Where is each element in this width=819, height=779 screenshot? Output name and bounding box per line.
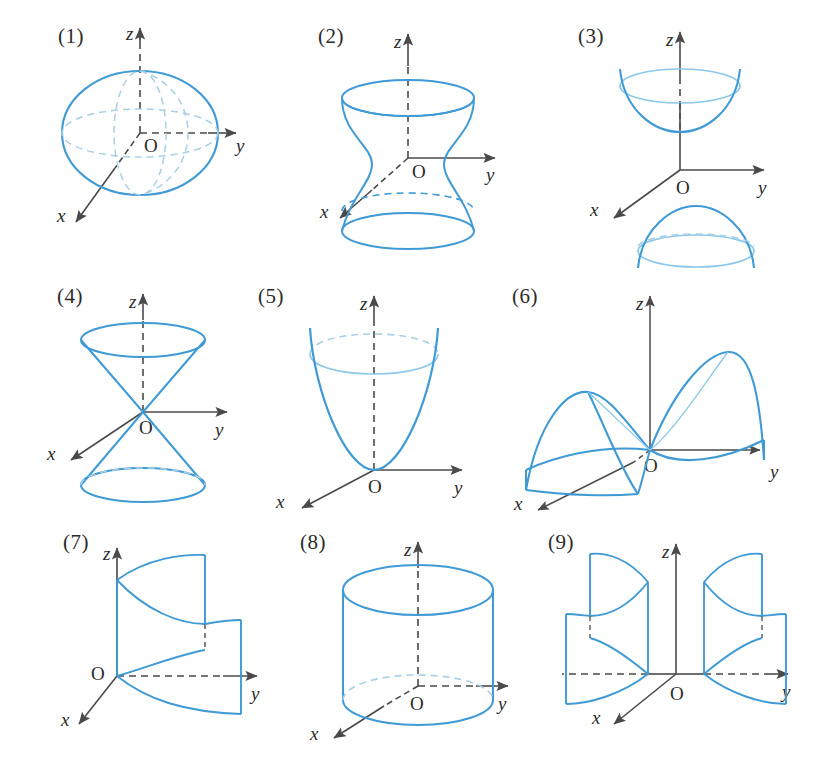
figure-7-x-label: x	[60, 709, 70, 730]
figure-4-z-label: z	[128, 291, 137, 312]
figure-2-x-label: x	[319, 201, 329, 222]
figure-1-origin-label: O	[144, 135, 158, 156]
figure-plate: (1) z y x O	[0, 0, 819, 779]
figure-6-number: (6)	[512, 284, 538, 309]
figure-9-z-label: z	[661, 541, 670, 562]
figure-7-parabolic-cylinder: (7) z y x O	[55, 528, 305, 768]
figure-7-y-label: y	[249, 683, 260, 704]
figure-3-number: (3)	[578, 24, 604, 49]
figure-2-z-label: z	[393, 31, 402, 52]
figure-1-number: (1)	[58, 24, 84, 49]
figure-2-number: (2)	[318, 24, 344, 49]
figure-3-x-label: x	[589, 199, 599, 220]
figure-8-x-label: x	[309, 723, 319, 744]
figure-4-elliptic-cone: (4) z y x O	[35, 282, 285, 512]
figure-2-origin-label: O	[412, 161, 426, 182]
figure-8-elliptic-cylinder: (8) z y x O	[300, 528, 550, 768]
figure-8-z-label: z	[403, 539, 412, 560]
figure-7-z-label: z	[102, 543, 111, 564]
figure-1-x-label: x	[56, 205, 66, 226]
figure-6-axes: z y x O	[513, 293, 779, 514]
figure-5-origin-label: O	[368, 476, 382, 497]
figure-8-number: (8)	[300, 530, 326, 555]
figure-9-number: (9)	[548, 530, 574, 555]
figure-3-origin-label: O	[676, 177, 690, 198]
figure-4-x-label: x	[46, 443, 56, 464]
figure-5-elliptic-paraboloid: (5) z y x O	[258, 282, 518, 512]
figure-1-z-label: z	[125, 23, 134, 44]
figure-5-axes: z y x O	[275, 293, 463, 512]
figure-3-lower-sheet	[638, 206, 754, 268]
figure-9-right-branch	[704, 554, 786, 704]
figure-2-y-label: y	[484, 164, 495, 185]
figure-9-x-label: x	[591, 707, 601, 728]
figure-4-axes: z y x O	[46, 291, 227, 464]
figure-8-axes: z y x O	[309, 539, 508, 744]
figure-9-left-branch	[566, 554, 648, 704]
figure-1-ellipsoid: (1) z y x O	[40, 18, 290, 253]
figure-3-axes: z y x O	[589, 29, 767, 220]
figure-2-axes: z y x O	[319, 31, 495, 222]
figure-6-hyperbolic-paraboloid: (6) z y x O	[508, 282, 808, 517]
figure-2-hyperboloid-one-sheet: (2) z y x O	[300, 18, 550, 263]
figure-4-number: (4)	[57, 284, 83, 309]
figure-5-x-label: x	[275, 491, 285, 512]
figure-5-number: (5)	[258, 284, 284, 309]
figure-6-y-label: y	[768, 461, 779, 482]
figure-3-hyperboloid-two-sheets: (3) z y x O	[568, 18, 818, 273]
figure-3-y-label: y	[756, 177, 767, 198]
figure-7-axes: z y x O	[60, 543, 260, 730]
figure-7-surface	[117, 555, 241, 714]
figure-3-z-label: z	[665, 29, 674, 50]
figure-8-origin-label: O	[410, 693, 424, 714]
figure-5-z-label: z	[359, 293, 368, 314]
figure-9-origin-label: O	[670, 683, 684, 704]
figure-7-origin-label: O	[91, 663, 105, 684]
figure-9-hyperbolic-cylinder: (9) z y x O	[548, 528, 810, 768]
figure-1-y-label: y	[234, 135, 245, 156]
figure-5-y-label: y	[452, 477, 463, 498]
figure-6-z-label: z	[635, 293, 644, 314]
figure-6-x-label: x	[513, 493, 523, 514]
figure-7-number: (7)	[63, 530, 89, 555]
figure-8-y-label: y	[496, 693, 507, 714]
figure-4-y-label: y	[213, 419, 224, 440]
